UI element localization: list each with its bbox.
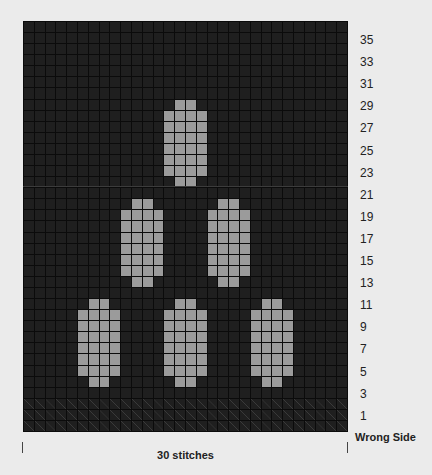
row-number-label: 31	[360, 78, 373, 90]
chart-cell	[251, 421, 261, 431]
chart-cell	[67, 155, 77, 165]
chart-cell	[272, 77, 282, 87]
chart-cell	[337, 22, 347, 32]
chart-cell	[272, 321, 282, 331]
chart-cell	[316, 100, 326, 110]
chart-cell	[24, 321, 34, 331]
chart-cell	[208, 354, 218, 364]
chart-cell	[294, 199, 304, 209]
chart-cell	[316, 244, 326, 254]
chart-cell	[132, 210, 142, 220]
chart-cell	[316, 310, 326, 320]
chart-cell	[229, 399, 239, 409]
chart-cell	[305, 166, 315, 176]
chart-cell	[251, 255, 261, 265]
chart-cell	[154, 299, 164, 309]
chart-cell	[186, 310, 196, 320]
chart-cell	[240, 354, 250, 364]
chart-cell	[46, 166, 56, 176]
chart-cell	[78, 144, 88, 154]
chart-cell	[89, 144, 99, 154]
chart-cell	[208, 410, 218, 420]
chart-cell	[56, 343, 66, 353]
chart-cell	[262, 199, 272, 209]
chart-cell	[164, 44, 174, 54]
chart-cell	[132, 22, 142, 32]
chart-cell	[283, 122, 293, 132]
chart-cell	[337, 266, 347, 276]
chart-cell	[197, 199, 207, 209]
chart-cell	[251, 332, 261, 342]
chart-cell	[46, 399, 56, 409]
chart-cell	[283, 266, 293, 276]
chart-cell	[316, 133, 326, 143]
chart-cell	[186, 266, 196, 276]
chart-cell	[229, 100, 239, 110]
chart-cell	[67, 244, 77, 254]
chart-cell	[24, 55, 34, 65]
chart-cell	[110, 266, 120, 276]
chart-cell	[175, 210, 185, 220]
chart-cell	[132, 277, 142, 287]
chart-cell	[326, 88, 336, 98]
chart-cell	[272, 377, 282, 387]
chart-cell	[251, 210, 261, 220]
chart-cell	[121, 111, 131, 121]
chart-cell	[337, 321, 347, 331]
chart-cell	[78, 221, 88, 231]
chart-cell	[197, 100, 207, 110]
chart-cell	[143, 233, 153, 243]
chart-cell	[186, 100, 196, 110]
chart-cell	[175, 199, 185, 209]
chart-cell	[132, 221, 142, 231]
chart-cell	[132, 343, 142, 353]
chart-cell	[294, 244, 304, 254]
chart-cell	[100, 266, 110, 276]
chart-cell	[154, 111, 164, 121]
chart-cell	[294, 255, 304, 265]
chart-cell	[294, 288, 304, 298]
chart-cell	[56, 255, 66, 265]
chart-cell	[229, 77, 239, 87]
chart-cell	[272, 332, 282, 342]
chart-cell	[262, 332, 272, 342]
chart-cell	[305, 122, 315, 132]
chart-cell	[316, 33, 326, 43]
chart-cell	[100, 288, 110, 298]
chart-cell	[121, 233, 131, 243]
chart-cell	[218, 354, 228, 364]
chart-cell	[197, 221, 207, 231]
chart-cell	[175, 399, 185, 409]
chart-cell	[67, 133, 77, 143]
chart-cell	[197, 310, 207, 320]
chart-cell	[154, 88, 164, 98]
chart-cell	[197, 233, 207, 243]
chart-cell	[229, 188, 239, 198]
chart-cell	[218, 88, 228, 98]
chart-cell	[35, 288, 45, 298]
chart-cell	[337, 77, 347, 87]
chart-cell	[154, 66, 164, 76]
chart-cell	[197, 332, 207, 342]
chart-cell	[100, 22, 110, 32]
chart-cell	[186, 22, 196, 32]
chart-cell	[56, 266, 66, 276]
chart-cell	[229, 343, 239, 353]
chart-cell	[186, 133, 196, 143]
chart-cell	[337, 421, 347, 431]
chart-cell	[46, 321, 56, 331]
chart-cell	[67, 388, 77, 398]
chart-cell	[132, 354, 142, 364]
chart-cell	[35, 77, 45, 87]
chart-cell	[100, 343, 110, 353]
chart-cell	[240, 377, 250, 387]
chart-cell	[110, 22, 120, 32]
chart-cell	[46, 66, 56, 76]
chart-cell	[154, 210, 164, 220]
chart-cell	[110, 321, 120, 331]
chart-cell	[294, 100, 304, 110]
chart-cell	[110, 33, 120, 43]
chart-cell	[164, 144, 174, 154]
chart-cell	[229, 388, 239, 398]
chart-cell	[121, 366, 131, 376]
